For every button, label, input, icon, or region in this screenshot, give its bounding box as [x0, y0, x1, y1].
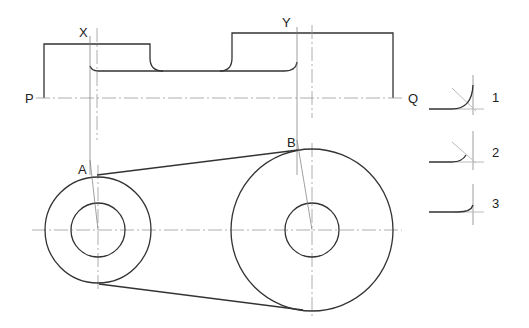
engineering-drawing: X Y P Q A B 1 2: [0, 0, 529, 328]
label-q: Q: [408, 91, 418, 106]
elevation-view: X Y P Q: [25, 15, 418, 175]
option-2-diagonal: [452, 142, 476, 163]
fillet-option-1[interactable]: 1: [429, 75, 499, 115]
option-1-label: 1: [492, 90, 499, 105]
label-x: X: [79, 25, 88, 40]
projection-b: [297, 140, 312, 230]
option-3-label: 3: [492, 196, 499, 211]
label-p: P: [25, 91, 34, 106]
fillet-option-3[interactable]: 3: [429, 184, 499, 225]
label-y: Y: [282, 15, 291, 30]
projection-a: [90, 160, 98, 230]
lower-tangent-line: [99, 284, 303, 310]
option-1-curve: [429, 85, 473, 109]
option-2-label: 2: [492, 145, 499, 160]
plan-view: A B: [32, 135, 402, 318]
fillet-option-2[interactable]: 2: [429, 131, 499, 170]
label-b: B: [287, 135, 296, 150]
label-a: A: [78, 162, 87, 177]
option-2-curve: [429, 155, 466, 162]
elevation-outline: [44, 33, 393, 98]
option-3-curve: [429, 205, 473, 212]
